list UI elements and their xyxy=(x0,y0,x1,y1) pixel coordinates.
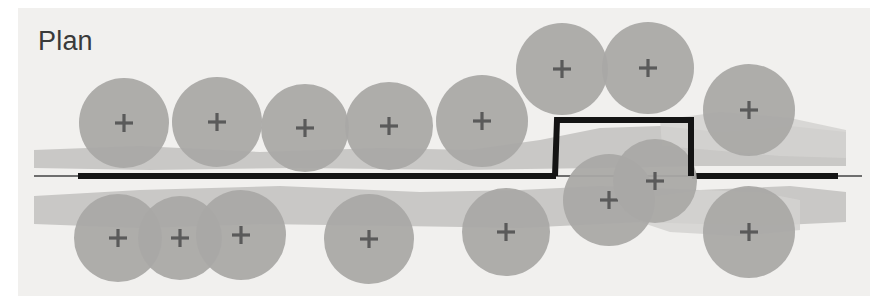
plan-figure: Plan xyxy=(0,0,885,302)
plan-circle-u4 xyxy=(345,82,433,170)
plan-circle-l8 xyxy=(703,186,795,278)
plan-circle-l5 xyxy=(462,188,550,276)
plan-circle-l4 xyxy=(324,194,414,284)
plan-circle-u7 xyxy=(602,22,694,114)
plan-circle-u5 xyxy=(436,75,528,167)
plan-circle-u3 xyxy=(261,84,349,172)
plan-circle-u1 xyxy=(79,78,169,168)
plan-circle-u6 xyxy=(516,23,608,115)
plan-circle-u2 xyxy=(172,77,262,167)
plan-circle-l7 xyxy=(613,139,697,223)
plan-circle-u8 xyxy=(703,64,795,156)
plan-circle-l3 xyxy=(196,190,286,280)
plan-drawing-canvas: Plan xyxy=(0,0,885,302)
page-title: Plan xyxy=(38,26,93,56)
